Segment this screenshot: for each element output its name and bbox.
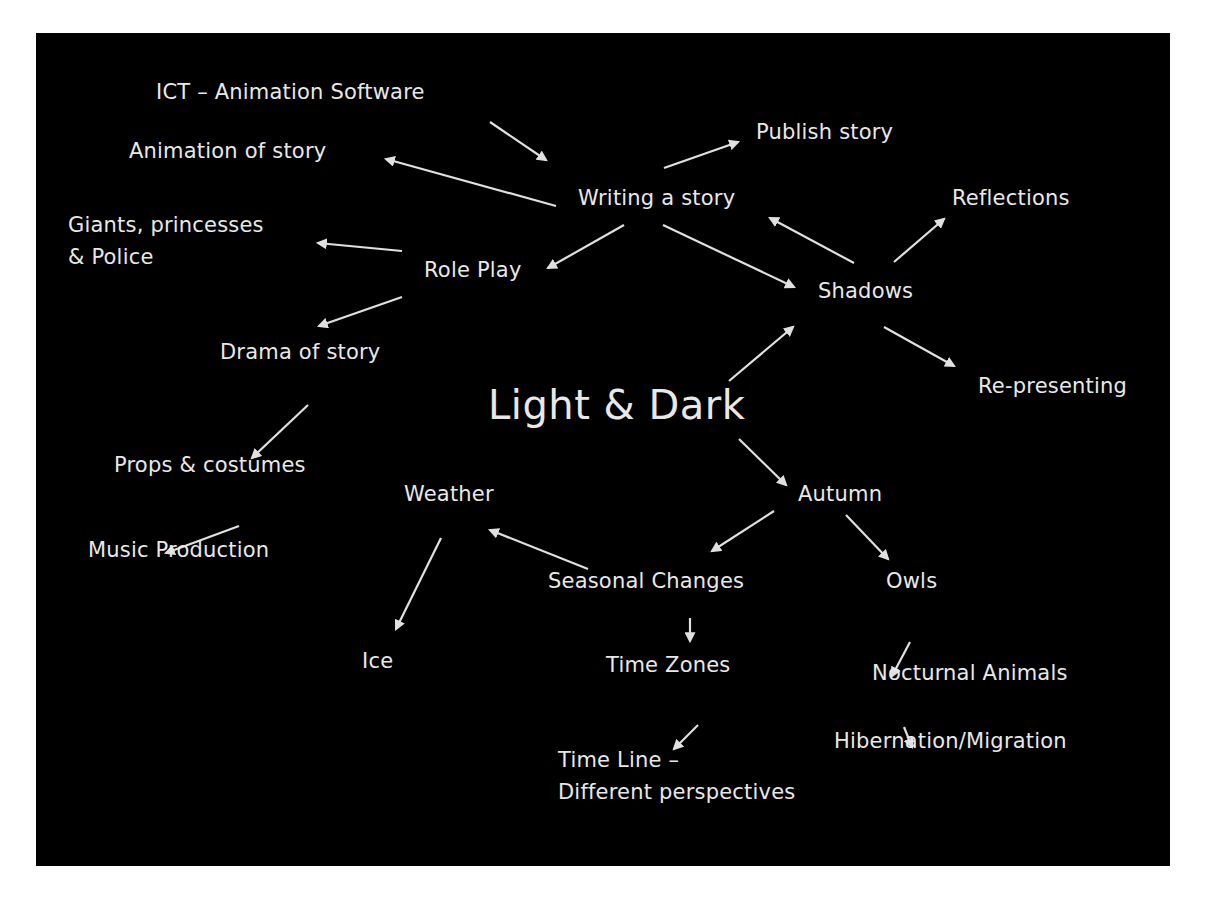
node-publish-story: Publish story	[756, 117, 893, 147]
arrow-autumn-to-owls	[846, 515, 888, 559]
arrow-writing-to-roleplay	[548, 225, 624, 268]
arrow-writing-to-publish	[664, 142, 738, 168]
node-writing-a-story: Writing a story	[578, 183, 735, 213]
node-time-line-different-perspectives: Time Line – Different perspectives	[558, 744, 795, 808]
node-re-presenting: Re-presenting	[978, 371, 1127, 401]
node-seasonal-changes: Seasonal Changes	[548, 566, 744, 596]
arrow-shadows-to-reflections	[894, 219, 944, 262]
arrow-lightdark-to-autumn	[739, 439, 786, 485]
arrow-shadows-to-writing	[770, 218, 854, 263]
arrow-lightdark-to-shadows	[729, 327, 793, 381]
node-reflections: Reflections	[952, 183, 1070, 213]
node-hibernation-migration: Hibernation/Migration	[834, 726, 1067, 756]
node-drama-of-story: Drama of story	[220, 337, 380, 367]
arrow-seasonal-to-weather	[490, 530, 588, 569]
arrow-roleplay-to-drama	[319, 297, 402, 326]
node-ice: Ice	[362, 646, 393, 676]
node-music-production: Music Production	[88, 535, 269, 565]
node-time-zones: Time Zones	[606, 650, 730, 680]
arrow-writing-to-animation	[386, 159, 556, 206]
node-light-and-dark-center: Light & Dark	[488, 381, 745, 429]
arrow-shadows-to-representing	[884, 327, 954, 366]
node-props-and-costumes: Props & costumes	[114, 450, 306, 480]
node-role-play: Role Play	[424, 255, 522, 285]
node-animation-of-story: Animation of story	[129, 136, 326, 166]
node-weather: Weather	[404, 479, 494, 509]
node-ict-animation-software: ICT – Animation Software	[156, 77, 425, 107]
node-nocturnal-animals: Nocturnal Animals	[872, 658, 1068, 688]
node-autumn: Autumn	[798, 479, 882, 509]
node-owls: Owls	[886, 566, 937, 596]
node-shadows: Shadows	[818, 276, 913, 306]
arrow-roleplay-to-giants	[318, 243, 402, 251]
mind-map-slide: ICT – Animation Software Animation of st…	[36, 33, 1170, 866]
arrow-weather-to-ice	[396, 538, 441, 629]
arrow-ict-to-writing	[490, 122, 546, 160]
arrow-autumn-to-seasonal	[712, 511, 774, 551]
arrow-writing-to-shadows	[663, 225, 794, 287]
node-giants-princesses-police: Giants, princesses & Police	[68, 209, 264, 273]
